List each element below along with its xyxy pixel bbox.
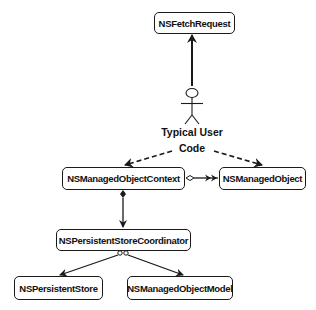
context-to-coordinator-edge bbox=[120, 190, 126, 227]
coordinator-to-persistent-store-edge bbox=[60, 251, 122, 275]
actor-label-line1: Typical User bbox=[150, 124, 234, 140]
node-label: NSPersistentStoreCoordinator bbox=[59, 235, 188, 246]
core-data-diagram: NSFetchRequest Typical User Code NSManag… bbox=[0, 0, 316, 310]
actor-label: Typical User Code bbox=[150, 124, 234, 156]
filled-diamond-icon bbox=[120, 190, 126, 198]
coordinator-to-object-model-edge bbox=[124, 251, 183, 275]
node-nsmanagedobjectmodel: NSManagedObjectModel bbox=[127, 276, 233, 300]
node-nspersistentstorecoordinator: NSPersistentStoreCoordinator bbox=[56, 229, 191, 251]
context-to-managed-object-edge bbox=[186, 175, 218, 182]
node-nsmanagedobjectcontext: NSManagedObjectContext bbox=[62, 167, 185, 190]
node-label: NSManagedObject bbox=[223, 173, 302, 184]
node-nspersistentstore: NSPersistentStore bbox=[14, 276, 103, 300]
stick-figure-icon bbox=[181, 89, 203, 125]
open-diamond-icon bbox=[186, 176, 194, 181]
node-label: NSFetchRequest bbox=[159, 18, 231, 29]
node-nsmanagedobject: NSManagedObject bbox=[219, 167, 306, 190]
actor-label-line2: Code bbox=[150, 140, 234, 156]
node-label: NSPersistentStore bbox=[19, 283, 97, 294]
open-circle-icon bbox=[118, 251, 122, 255]
node-label: NSManagedObjectContext bbox=[67, 173, 180, 184]
open-circle-icon bbox=[124, 251, 128, 255]
node-label: NSManagedObjectModel bbox=[127, 283, 232, 294]
node-nsfetchrequest: NSFetchRequest bbox=[154, 12, 235, 34]
